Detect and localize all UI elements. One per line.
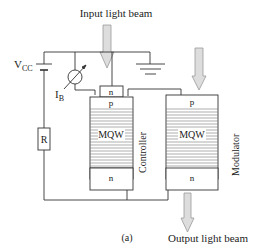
controller-n-label: n xyxy=(109,173,114,183)
output-arrow-icon xyxy=(181,193,194,232)
diagram-canvas: Input light beam VCC xyxy=(0,0,263,244)
figure-caption: (a) xyxy=(121,232,132,244)
input-light-beam-label: Input light beam xyxy=(80,7,153,19)
svg-text:R: R xyxy=(41,134,48,145)
controller-mqw-label: MQW xyxy=(98,129,124,140)
ground-icon xyxy=(136,64,165,74)
controller-label: Controller xyxy=(137,131,148,173)
modulator-device: p MQW n Modulator xyxy=(166,95,241,190)
modulator-mqw-label: MQW xyxy=(179,129,205,140)
controller-device: n p MQW n Controller xyxy=(90,86,148,190)
output-light-beam-label: Output light beam xyxy=(168,232,248,244)
ib-label: IB xyxy=(55,88,64,103)
modulator-n-label: n xyxy=(190,173,195,183)
battery-icon xyxy=(36,64,52,70)
controller-p-label: p xyxy=(109,98,114,108)
controller-top-contact-label: n xyxy=(109,87,114,97)
modulator-label: Modulator xyxy=(230,133,241,176)
modulator-input-arrow-icon xyxy=(192,48,206,90)
modulator-p-label: p xyxy=(190,97,195,107)
resistor: R xyxy=(38,128,50,150)
vcc-label: VCC xyxy=(14,58,33,73)
